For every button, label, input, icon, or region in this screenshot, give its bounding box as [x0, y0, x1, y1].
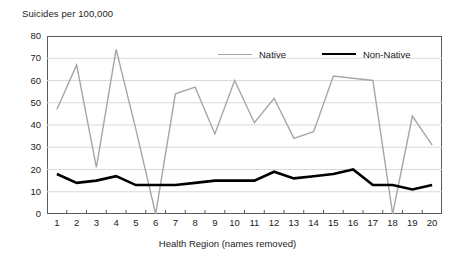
y-tick-label: 0 — [17, 209, 41, 219]
y-tick-label: 40 — [17, 120, 41, 130]
x-tick-label: 3 — [86, 218, 106, 228]
x-tick-label: 2 — [67, 218, 87, 228]
x-tick-label: 12 — [264, 218, 284, 228]
legend-item-native: Native — [218, 49, 286, 60]
x-tick-label: 8 — [185, 218, 205, 228]
x-tick-label: 5 — [126, 218, 146, 228]
y-tick-label: 50 — [17, 98, 41, 108]
x-tick-label: 10 — [225, 218, 245, 228]
x-tick-label: 9 — [205, 218, 225, 228]
x-tick-label: 20 — [422, 218, 442, 228]
x-tick-label: 17 — [363, 218, 383, 228]
plot-svg — [47, 36, 442, 214]
legend-line-swatch-native — [218, 54, 252, 55]
series-group — [57, 49, 432, 214]
x-axis-title: Health Region (names removed) — [0, 238, 455, 249]
y-tick-label: 30 — [17, 142, 41, 152]
x-tick-label: 1 — [47, 218, 67, 228]
legend-label-native: Native — [259, 49, 286, 60]
y-tick-label: 70 — [17, 53, 41, 63]
x-tick-label: 4 — [106, 218, 126, 228]
legend-item-non-native: Non-Native — [322, 49, 411, 60]
x-tick-label: 18 — [383, 218, 403, 228]
y-tick-label: 20 — [17, 165, 41, 175]
legend-label-non-native: Non-Native — [363, 49, 411, 60]
chart-legend: Native Non-Native — [218, 47, 446, 61]
legend-line-swatch-non-native — [322, 53, 356, 55]
x-tick-label: 13 — [284, 218, 304, 228]
x-tick-label: 15 — [323, 218, 343, 228]
x-tick-label: 6 — [146, 218, 166, 228]
series-line-native — [57, 49, 432, 214]
x-tick-label: 19 — [402, 218, 422, 228]
series-line-non-native — [57, 170, 432, 190]
x-tick-label: 16 — [343, 218, 363, 228]
y-tick-label: 10 — [17, 187, 41, 197]
gridlines-group — [47, 58, 442, 192]
x-tick-label: 11 — [244, 218, 264, 228]
x-tick-label: 14 — [304, 218, 324, 228]
chart-title: Suicides per 100,000 — [22, 8, 113, 19]
y-tick-label: 60 — [17, 76, 41, 86]
x-tick-marks-group — [47, 210, 442, 214]
suicide-rate-line-chart: Suicides per 100,000 80706050403020100 1… — [0, 0, 455, 262]
y-tick-label: 80 — [17, 31, 41, 41]
x-tick-label: 7 — [165, 218, 185, 228]
